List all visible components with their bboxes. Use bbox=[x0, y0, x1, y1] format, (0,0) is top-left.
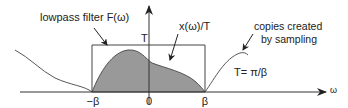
filter-label: lowpass filter F(ω) bbox=[40, 12, 129, 23]
filter-annotation-arrow bbox=[94, 28, 107, 45]
sampling-spectrum-diagram: lowpass filter F(ω) x(ω)/T copies create… bbox=[0, 0, 348, 108]
filter-height-label: T bbox=[141, 33, 148, 44]
copies-label-line1: copies created bbox=[254, 21, 322, 32]
copies-annotation-arrow bbox=[243, 34, 253, 50]
neg-beta-tick-label: −β bbox=[87, 96, 100, 107]
copies-label-line2: by sampling bbox=[261, 34, 317, 45]
pos-beta-tick-label: β bbox=[202, 96, 208, 107]
period-label: T= π/β bbox=[234, 67, 267, 78]
spectrum-annotation-arrow bbox=[170, 34, 178, 60]
spectrum-label: x(ω)/T bbox=[179, 21, 210, 32]
omega-axis-label: ω bbox=[330, 86, 337, 95]
left-spectral-copy bbox=[15, 50, 92, 92]
zero-tick-label: 0 bbox=[146, 96, 152, 107]
